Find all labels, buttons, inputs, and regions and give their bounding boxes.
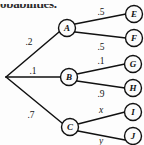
edge-B-H	[77, 81, 125, 88]
node-E-label: E	[130, 9, 137, 19]
node-F-label: F	[130, 33, 137, 43]
edge-A-F	[75, 32, 126, 38]
node-C: C	[62, 119, 79, 136]
node-J: J	[125, 128, 142, 145]
edge-label-B-H: .9	[97, 89, 104, 99]
node-B-label: B	[65, 72, 72, 82]
edge-label-C-J: y	[98, 136, 104, 145]
edge-label-A-F: .5	[97, 42, 104, 52]
edge-label-B-G: .1	[97, 56, 104, 66]
node-group: A B C E F G H	[59, 6, 143, 145]
edge-label-root-C: .7	[27, 110, 34, 120]
node-G-label: G	[130, 59, 137, 69]
node-A-label: A	[63, 23, 70, 33]
node-E: E	[126, 6, 143, 23]
edge-label-root-B: .1	[29, 66, 36, 76]
node-H-label: H	[128, 83, 137, 93]
node-A: A	[59, 20, 76, 37]
edge-label-root-A: .2	[25, 37, 32, 47]
node-I-label: I	[130, 107, 135, 117]
probability-tree-figure: obabilities. A B C	[0, 0, 144, 145]
node-C-label: C	[67, 122, 74, 132]
node-F: F	[126, 30, 143, 47]
node-G: G	[125, 56, 142, 73]
node-J-label: J	[130, 131, 136, 141]
node-I: I	[125, 104, 142, 121]
node-H: H	[125, 80, 142, 97]
node-B: B	[61, 69, 78, 86]
edge-label-C-I: x	[98, 105, 104, 115]
tree-diagram-canvas: A B C E F G H	[0, 0, 144, 145]
edge-label-A-E: .5	[97, 7, 104, 17]
